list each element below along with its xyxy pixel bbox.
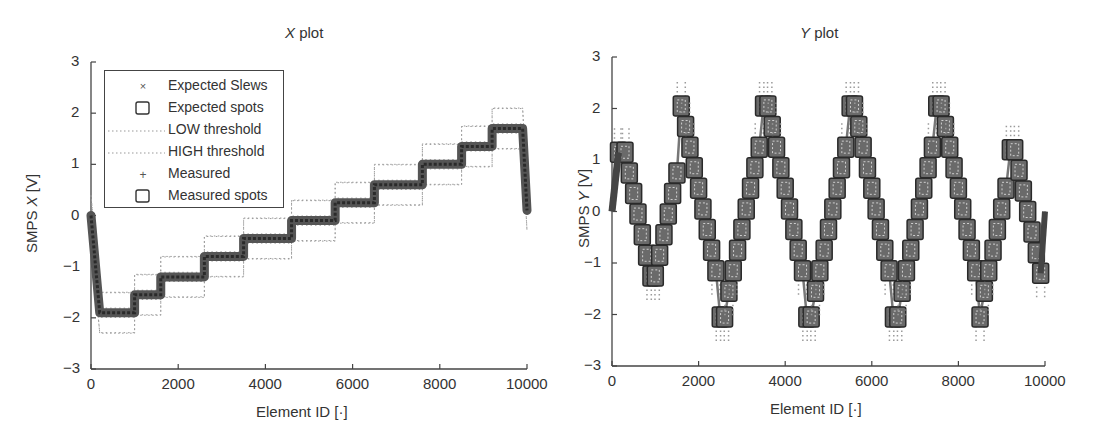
measured-spot	[691, 178, 707, 198]
y-tick-label: 2	[71, 103, 79, 120]
y-plot-canvas	[552, 0, 1104, 448]
measured-spot	[652, 245, 668, 265]
measured-spot	[920, 158, 936, 178]
y-tick-label: −3	[584, 356, 601, 373]
measured-spot	[829, 178, 845, 198]
measured-spot	[630, 204, 646, 224]
x-plot-title: X plot	[285, 24, 323, 41]
measured-spot	[777, 178, 793, 198]
measured-spot	[669, 163, 685, 183]
x-tick-label: 2000	[682, 372, 715, 389]
measured-spot	[782, 199, 798, 219]
y-plot-x-axis-label: Element ID [·]	[770, 400, 862, 417]
x-tick-label: 0	[87, 375, 95, 392]
measured-spot	[656, 225, 672, 245]
legend-item: +Measured	[105, 163, 281, 185]
legend-item: HIGH threshold	[105, 141, 281, 163]
measured-spot	[877, 240, 893, 260]
measured-spot	[946, 158, 962, 178]
svg-text:×: ×	[140, 80, 146, 92]
y-tick-label: −3	[63, 359, 80, 376]
measured-spot	[989, 220, 1005, 240]
measured-spot	[903, 240, 919, 260]
dotted-line-icon	[105, 141, 165, 163]
measured-spot	[695, 199, 711, 219]
measured-spot	[963, 240, 979, 260]
measured-spot	[773, 158, 789, 178]
x-plot-x-axis-label: Element ID [·]	[256, 403, 348, 420]
measured-spot	[1020, 202, 1036, 222]
measured-spot	[911, 199, 927, 219]
measured-spot	[955, 199, 971, 219]
legend-label: Expected spots	[168, 99, 264, 115]
measured-spot	[825, 199, 841, 219]
measured-spot	[751, 137, 767, 157]
x-tick-label: 6000	[336, 375, 369, 392]
square-icon	[105, 97, 165, 119]
y-tick-label: 1	[71, 154, 79, 171]
measured-spot	[898, 261, 914, 281]
y-tick-label: 0	[71, 206, 79, 223]
measured-spot	[747, 158, 763, 178]
measured-spot	[881, 261, 897, 281]
measured-spot	[855, 137, 871, 157]
y-tick-label: 1	[592, 150, 600, 167]
measured-spot	[916, 178, 932, 198]
measured-spot	[665, 183, 681, 203]
measured-spot	[1024, 222, 1040, 242]
measured-spot	[769, 137, 785, 157]
measured-spot	[660, 204, 676, 224]
legend-item: LOW threshold	[105, 119, 281, 141]
legend-label: HIGH threshold	[168, 143, 264, 159]
measured-spot	[621, 163, 637, 183]
x-tick-label: 10000	[1024, 372, 1066, 389]
measured-spot	[704, 240, 720, 260]
plus-icon: +	[105, 163, 165, 185]
measured-spot	[868, 199, 884, 219]
legend-item: Expected spots	[105, 97, 281, 119]
y-plot-panel: Y plot SMPS Y [V] Element ID [·] 0200040…	[552, 0, 1104, 448]
y-tick-label: 3	[71, 52, 79, 69]
y-tick-label: 2	[592, 99, 600, 116]
measured-spot	[816, 240, 832, 260]
measured-spot	[821, 220, 837, 240]
measured-spot	[942, 137, 958, 157]
x-tick-label: 4000	[249, 375, 282, 392]
dotted-line-icon	[105, 119, 165, 141]
measured-spot	[790, 240, 806, 260]
y-tick-label: 3	[592, 47, 600, 64]
measured-spot	[838, 137, 854, 157]
measured-spot	[959, 220, 975, 240]
y-tick-label: −1	[63, 257, 80, 274]
measured-spot	[981, 261, 997, 281]
measured-spot	[998, 178, 1014, 198]
legend-label: LOW threshold	[168, 121, 261, 137]
measured-spot	[734, 220, 750, 240]
measured-spot	[833, 158, 849, 178]
measured-spot	[743, 178, 759, 198]
measured-spot	[1011, 160, 1027, 180]
x-tick-label: 8000	[423, 375, 456, 392]
x-plot-y-axis-label: SMPS X [V]	[23, 174, 40, 253]
measured-spot	[634, 225, 650, 245]
measured-spot	[682, 137, 698, 157]
x-plot-legend: ×Expected SlewsExpected spotsLOW thresho…	[104, 70, 284, 208]
measured-spot	[812, 261, 828, 281]
measured-spot	[872, 220, 888, 240]
legend-item: Measured spots	[105, 185, 281, 207]
x-plot-panel: X plot SMPS X [V] Element ID [·] 0200040…	[0, 0, 552, 448]
measured-spot	[924, 137, 940, 157]
measured-spot	[686, 158, 702, 178]
measured-spot	[730, 240, 746, 260]
measured-spot	[725, 261, 741, 281]
y-tick-label: −2	[63, 308, 80, 325]
measured-spot	[708, 261, 724, 281]
legend-label: Measured spots	[168, 187, 268, 203]
x-tick-label: 8000	[942, 372, 975, 389]
measured-spot	[1015, 181, 1031, 201]
measured-spot	[950, 178, 966, 198]
x-mark-icon: ×	[105, 75, 165, 97]
y-tick-label: −1	[584, 253, 601, 270]
square-icon	[105, 185, 165, 207]
legend-label: Measured	[168, 165, 230, 181]
